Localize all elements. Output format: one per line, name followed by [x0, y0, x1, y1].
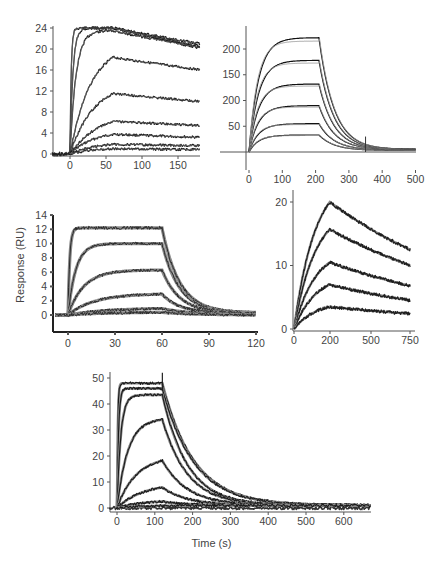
y-tick-label: 14	[35, 209, 47, 221]
y-tick-label: 2	[41, 294, 47, 306]
x-tick-label: 50	[100, 159, 112, 171]
x-tick-label: 500	[297, 515, 315, 527]
x-tick-label: 0	[114, 515, 120, 527]
y-tick-label: 200	[222, 94, 240, 106]
x-tick-label: 100	[133, 159, 151, 171]
panel-a-chart: 04812162024050100150	[35, 22, 200, 172]
y-tick-label: 20	[275, 196, 287, 208]
x-tick-label: 0	[246, 173, 252, 185]
y-tick-label: 10	[92, 476, 104, 488]
x-tick-label: 30	[109, 337, 121, 349]
x-tick-label: 300	[222, 515, 240, 527]
y-tick-label: 12	[35, 223, 47, 235]
x-tick-label: 400	[373, 173, 391, 185]
y-tick-label: 40	[92, 398, 104, 410]
y-tick-label: 6	[41, 266, 47, 278]
y-tick-label: 12	[35, 85, 47, 97]
y-axis-label: Response (RU)	[14, 227, 26, 303]
y-tick-label: 16	[35, 64, 47, 76]
x-tick-label: 300	[340, 173, 358, 185]
x-tick-label: 400	[259, 515, 277, 527]
panel-e-chart: 010203040500100200300400500600Time (s)	[92, 372, 371, 550]
x-tick-label: 60	[156, 337, 168, 349]
y-tick-label: 20	[35, 43, 47, 55]
sensorgram-figure: 04812162024050100150 5020015020001002003…	[0, 0, 438, 562]
y-tick-label: 0	[281, 323, 287, 335]
y-tick-label: 4	[41, 127, 47, 139]
x-tick-label: 120	[247, 337, 265, 349]
y-tick-label: 24	[35, 22, 47, 34]
y-tick-label: 8	[41, 251, 47, 263]
y-tick-label: 8	[41, 106, 47, 118]
x-tick-label: 200	[321, 334, 339, 346]
panel-d-chart: 010200200500750	[275, 190, 419, 346]
y-tick-label: 30	[92, 424, 104, 436]
x-axis-label: Time (s)	[192, 537, 232, 549]
y-tick-label: 0	[41, 309, 47, 321]
y-tick-label: 200	[222, 43, 240, 55]
panel-c-chart: 024681012140306090120Response (RU)	[14, 209, 265, 349]
y-tick-label: 50	[228, 120, 240, 132]
y-tick-label: 50	[92, 372, 104, 384]
x-tick-label: 750	[401, 334, 419, 346]
x-tick-label: 90	[203, 337, 215, 349]
x-tick-label: 200	[307, 173, 325, 185]
x-tick-label: 0	[65, 337, 71, 349]
y-tick-label: 150	[222, 68, 240, 80]
x-tick-label: 500	[362, 334, 380, 346]
y-tick-label: 10	[275, 259, 287, 271]
y-tick-label: 20	[92, 450, 104, 462]
x-tick-label: 100	[274, 173, 292, 185]
x-tick-label: 150	[169, 159, 187, 171]
x-tick-label: 600	[335, 515, 353, 527]
y-tick-label: 0	[41, 148, 47, 160]
x-tick-label: 100	[146, 515, 164, 527]
panel-b-chart: 502001502000100200300400500	[220, 26, 424, 185]
x-tick-label: 200	[184, 515, 202, 527]
x-tick-label: 0	[291, 334, 297, 346]
x-tick-label: 500	[407, 173, 425, 185]
y-tick-label: 10	[35, 237, 47, 249]
y-tick-label: 4	[41, 280, 47, 292]
x-tick-label: 0	[67, 159, 73, 171]
y-tick-label: 0	[98, 502, 104, 514]
